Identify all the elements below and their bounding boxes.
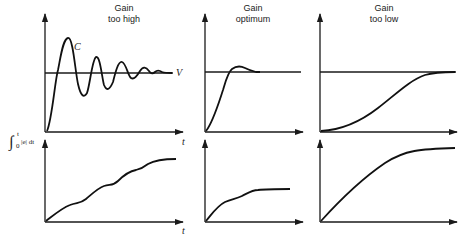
panel1-iae-curve bbox=[46, 159, 176, 221]
panel3-title-line1: Gain bbox=[374, 3, 393, 13]
panel2-response-curve bbox=[206, 67, 260, 131]
integrand: |e| dt bbox=[21, 138, 34, 146]
controller-gain-diagram: Gain too high C V t ∫ t 0 |e| dt t Gain … bbox=[0, 0, 466, 237]
integral-lower-limit: 0 bbox=[16, 142, 20, 150]
panel1-title-line1: Gain bbox=[114, 3, 133, 13]
panel1-time-label: t bbox=[182, 136, 185, 147]
panel-gain-too-low: Gain too low bbox=[320, 3, 457, 222]
setpoint-label-v: V bbox=[176, 67, 184, 78]
panel3-iae-curve bbox=[321, 148, 455, 221]
panel1-iae-time-label: t bbox=[182, 225, 185, 236]
curve-label-c: C bbox=[74, 41, 81, 52]
panel3-title-line2: too low bbox=[370, 14, 399, 24]
iae-axis-label: ∫ t 0 |e| dt bbox=[8, 130, 34, 152]
integral-sign: ∫ bbox=[8, 133, 15, 152]
panel1-title-line2: too high bbox=[108, 14, 140, 24]
panel3-response-curve bbox=[321, 72, 455, 131]
panel-gain-too-high: Gain too high C V t ∫ t 0 |e| dt t bbox=[8, 3, 185, 236]
panel2-title-line1: Gain bbox=[243, 3, 262, 13]
panel-gain-optimum: Gain optimum bbox=[205, 3, 303, 222]
panel2-iae-curve bbox=[206, 189, 290, 221]
integral-upper-limit: t bbox=[17, 130, 19, 138]
panel1-response-curve bbox=[47, 38, 172, 131]
panel2-title-line2: optimum bbox=[236, 14, 271, 24]
